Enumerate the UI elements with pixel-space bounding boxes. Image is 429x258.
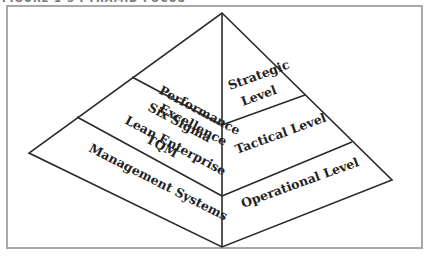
- right-tier-operational-level: Operational Level: [239, 154, 361, 211]
- pyramid-diagram: Performance Excellence Six Sigma Lean En…: [0, 0, 429, 258]
- svg-text:Tactical Level: Tactical Level: [233, 110, 328, 157]
- right-tier-strategic-level: Strategic Level: [226, 57, 292, 109]
- svg-text:Operational Level: Operational Level: [239, 154, 361, 211]
- svg-text:Management Systems: Management Systems: [87, 140, 231, 223]
- right-tier-tactical-level: Tactical Level: [233, 110, 328, 157]
- left-tier-management-systems: Management Systems: [87, 140, 231, 223]
